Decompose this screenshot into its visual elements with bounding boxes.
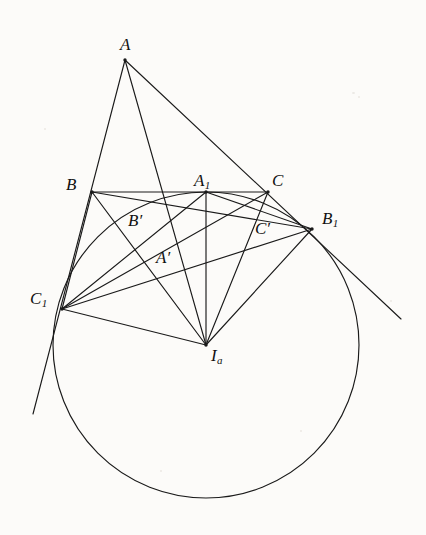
segment-C-Ia [206,192,268,345]
figure-canvas [0,0,426,535]
side-AB-extended-to-C1 [33,60,125,414]
vertex-dot-B1 [310,227,313,230]
point-label-C: C [272,172,283,189]
geometry-figure: ABCA1B1C1A′B′C′Ia [0,0,426,535]
vertex-dot-A [123,58,126,61]
point-label-A: A [120,36,130,53]
point-label-C1: C1 [30,290,47,309]
point-label-Ia: Ia [211,347,223,366]
segment-B-C1 [62,192,92,309]
radius-Ia-C1 [62,309,206,345]
vertex-dot-C1 [60,307,63,310]
side-AC-extended-to-B1 [125,60,401,319]
point-label-Bp: B′ [128,212,142,229]
vertex-dot-C [266,190,269,193]
point-label-B: B [66,176,76,193]
vertex-dot-group [60,58,313,346]
chord-C1-B1 [62,229,312,309]
vertex-dot-Ia [204,343,207,346]
point-label-B1: B1 [322,210,338,229]
point-label-Ap: A′ [156,249,170,266]
vertex-dot-B [90,190,93,193]
point-label-Cp: C′ [255,220,270,237]
point-label-A1: A1 [194,172,210,191]
